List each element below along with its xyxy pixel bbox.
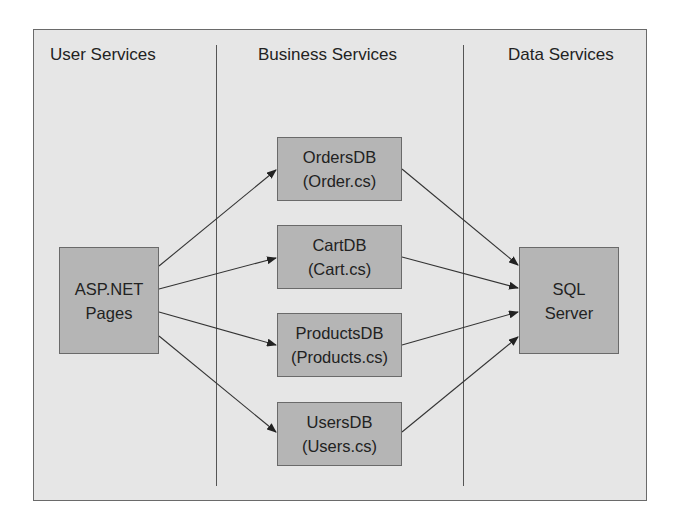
- node-usersdb: UsersDB (Users.cs): [277, 402, 402, 466]
- node-sql-line2: Server: [545, 301, 594, 325]
- node-sql-line1: SQL: [552, 277, 585, 301]
- node-aspnet-line1: ASP.NET: [75, 277, 143, 301]
- node-aspnet-pages: ASP.NET Pages: [59, 247, 159, 354]
- node-aspnet-line2: Pages: [86, 301, 133, 325]
- node-productsdb-line1: ProductsDB: [295, 321, 383, 345]
- node-usersdb-line2: (Users.cs): [302, 434, 377, 458]
- heading-data-services: Data Services: [508, 45, 614, 65]
- node-ordersdb-line2: (Order.cs): [303, 169, 376, 193]
- heading-user-services: User Services: [50, 45, 156, 65]
- node-usersdb-line1: UsersDB: [306, 410, 372, 434]
- node-ordersdb-line1: OrdersDB: [303, 145, 376, 169]
- node-cartdb-line2: (Cart.cs): [308, 257, 371, 281]
- node-productsdb: ProductsDB (Products.cs): [277, 313, 402, 377]
- heading-business-services: Business Services: [258, 45, 397, 65]
- node-ordersdb: OrdersDB (Order.cs): [277, 137, 402, 201]
- node-cartdb-line1: CartDB: [312, 233, 366, 257]
- divider-business-data: [463, 45, 464, 486]
- divider-user-business: [216, 45, 217, 486]
- node-sql-server: SQL Server: [519, 247, 619, 354]
- node-cartdb: CartDB (Cart.cs): [277, 225, 402, 289]
- node-productsdb-line2: (Products.cs): [291, 345, 388, 369]
